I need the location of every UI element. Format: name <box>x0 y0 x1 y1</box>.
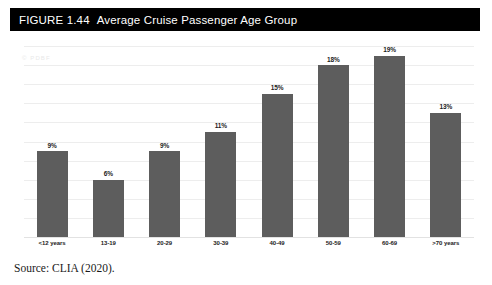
bar-group: 11% <box>193 46 249 237</box>
x-axis-tick-label: 13-19 <box>80 240 136 254</box>
bar-group: 19% <box>362 46 418 237</box>
chart-container: © PDBF 9%6%9%11%15%18%19%13% <12 years13… <box>10 38 480 258</box>
bar-series: 9%6%9%11%15%18%19%13% <box>24 46 474 237</box>
x-axis-tick-label: <12 years <box>24 240 80 254</box>
x-axis-category-labels: <12 years13-1920-2930-3940-4950-5960-69>… <box>24 240 474 254</box>
bar-value-label: 18% <box>327 57 340 64</box>
figure-number: FIGURE 1.44 <box>19 14 90 26</box>
x-axis-tick-label: >70 years <box>418 240 474 254</box>
plot-area: 9%6%9%11%15%18%19%13% <box>24 46 474 237</box>
bar-value-label: 11% <box>215 123 227 130</box>
figure-title-banner: FIGURE 1.44Average Cruise Passenger Age … <box>10 8 480 31</box>
bar <box>93 180 124 237</box>
page-title: Average Cruise Passenger Age Group <box>97 14 298 26</box>
bar <box>374 56 405 237</box>
bar <box>149 151 180 237</box>
bar-group: 9% <box>24 46 80 237</box>
bar <box>318 65 349 237</box>
bar <box>430 113 461 237</box>
bar <box>205 132 236 237</box>
x-axis-tick-label: 60-69 <box>362 240 418 254</box>
x-axis-tick-label: 40-49 <box>249 240 305 254</box>
bar-value-label: 19% <box>383 47 396 54</box>
bar-group: 6% <box>80 46 136 237</box>
bar-group: 18% <box>305 46 361 237</box>
bar <box>262 94 293 237</box>
axis-baseline <box>24 237 474 238</box>
bar-group: 13% <box>418 46 474 237</box>
bar-value-label: 9% <box>160 143 169 150</box>
bar-group: 15% <box>249 46 305 237</box>
figure-title-line: FIGURE 1.44Average Cruise Passenger Age … <box>19 14 297 26</box>
x-axis-tick-label: 30-39 <box>193 240 249 254</box>
bar-value-label: 6% <box>104 171 113 178</box>
x-axis-tick-label: 50-59 <box>305 240 361 254</box>
bar-value-label: 15% <box>271 85 284 92</box>
x-axis-tick-label: 20-29 <box>137 240 193 254</box>
bar-value-label: 13% <box>440 104 453 111</box>
source-caption: Source: CLIA (2020). <box>14 262 115 274</box>
bar-group: 9% <box>137 46 193 237</box>
bar <box>37 151 68 237</box>
bar-value-label: 9% <box>48 143 57 150</box>
